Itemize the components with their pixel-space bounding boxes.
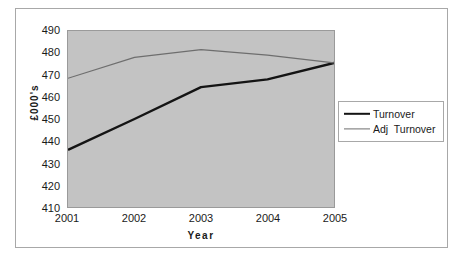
x-axis-tick-label: 2003 bbox=[189, 212, 213, 224]
y-axis-tick-label: 470 bbox=[42, 69, 60, 80]
chart-legend: Turnover Adj Turnover bbox=[338, 101, 444, 142]
chart-page: £000's 490480470460450440430420410 20012… bbox=[0, 0, 465, 266]
y-axis-tick-label: 430 bbox=[42, 158, 60, 169]
y-axis-tick-label: 460 bbox=[42, 91, 60, 102]
y-axis-tick-label: 420 bbox=[42, 180, 60, 191]
x-axis-tick-label: 2004 bbox=[256, 212, 280, 224]
chart-frame: £000's 490480470460450440430420410 20012… bbox=[15, 8, 448, 248]
legend-line-icon-adj-turnover bbox=[344, 124, 370, 134]
y-axis-tick-label: 480 bbox=[42, 47, 60, 58]
legend-label-turnover: Turnover bbox=[370, 108, 415, 120]
x-axis-tick-labels: 20012002200320042005 bbox=[67, 212, 335, 228]
series-line-turnover bbox=[68, 63, 334, 150]
legend-item-turnover: Turnover bbox=[344, 106, 438, 121]
x-axis-title: Year bbox=[67, 230, 335, 241]
y-axis-tick-labels: 490480470460450440430420410 bbox=[16, 30, 64, 208]
y-axis-tick-label: 440 bbox=[42, 136, 60, 147]
plot-area bbox=[67, 30, 335, 208]
series-lines bbox=[68, 31, 334, 207]
y-axis-tick-label: 490 bbox=[42, 25, 60, 36]
legend-item-adj-turnover: Adj Turnover bbox=[344, 121, 438, 136]
x-axis-tick-label: 2005 bbox=[323, 212, 347, 224]
legend-line-icon-turnover bbox=[344, 109, 370, 119]
y-axis-tick-label: 450 bbox=[42, 114, 60, 125]
x-axis-tick-label: 2001 bbox=[55, 212, 79, 224]
x-axis-tick-label: 2002 bbox=[122, 212, 146, 224]
legend-label-adj-turnover: Adj Turnover bbox=[370, 123, 435, 135]
